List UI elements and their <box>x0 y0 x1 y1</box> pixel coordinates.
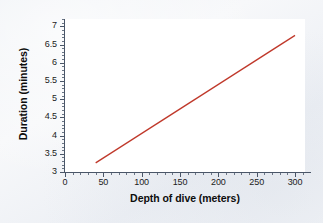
y-tick-label: 7 <box>33 20 57 30</box>
y-tick-minor <box>62 37 64 38</box>
x-tick-label: 250 <box>242 177 272 187</box>
y-tick-minor <box>62 41 64 42</box>
chart-figure: 050100150200250300 33.544.555.566.57 Dep… <box>0 0 323 223</box>
x-tick-label: 100 <box>127 177 157 187</box>
x-axis-title: Depth of dive (meters) <box>60 192 310 204</box>
y-tick-label: 5.5 <box>33 75 57 85</box>
y-axis-line <box>64 19 65 173</box>
y-tick-major <box>60 81 64 82</box>
x-tick-label: 300 <box>280 177 310 187</box>
data-line-layer <box>65 19 305 172</box>
y-tick-label: 3 <box>33 166 57 176</box>
y-tick-major <box>60 154 64 155</box>
y-tick-minor <box>62 52 64 53</box>
y-tick-minor <box>62 66 64 67</box>
x-tick-minor <box>80 173 81 175</box>
y-tick-minor <box>62 157 64 158</box>
y-tick-minor <box>62 125 64 126</box>
x-tick-minor <box>188 173 189 175</box>
x-tick-minor <box>249 173 250 175</box>
y-tick-label: 3.5 <box>33 148 57 158</box>
x-tick-minor <box>111 173 112 175</box>
y-tick-minor <box>62 143 64 144</box>
y-tick-minor <box>62 77 64 78</box>
y-tick-major <box>60 63 64 64</box>
y-tick-minor <box>62 114 64 115</box>
x-tick-minor <box>96 173 97 175</box>
x-tick-minor <box>264 173 265 175</box>
y-tick-minor <box>62 74 64 75</box>
y-tick-major <box>60 45 64 46</box>
x-tick-minor <box>241 173 242 175</box>
y-tick-minor <box>62 92 64 93</box>
x-tick-minor <box>73 173 74 175</box>
y-tick-minor <box>62 23 64 24</box>
y-tick-minor <box>62 165 64 166</box>
y-axis-title: Duration (minutes) <box>17 14 29 174</box>
x-tick-minor <box>272 173 273 175</box>
x-tick-minor <box>280 173 281 175</box>
data-series-line <box>96 35 295 163</box>
x-tick-minor <box>88 173 89 175</box>
y-tick-minor <box>62 48 64 49</box>
x-tick-minor <box>134 173 135 175</box>
y-tick-minor <box>62 139 64 140</box>
y-tick-label: 4.5 <box>33 111 57 121</box>
x-tick-minor <box>172 173 173 175</box>
y-tick-minor <box>62 96 64 97</box>
y-tick-label: 6.5 <box>33 39 57 49</box>
y-tick-minor <box>62 103 64 104</box>
y-tick-minor <box>62 121 64 122</box>
y-tick-minor <box>62 150 64 151</box>
y-tick-minor <box>62 70 64 71</box>
y-tick-minor <box>62 147 64 148</box>
y-tick-minor <box>62 106 64 107</box>
y-tick-label: 4 <box>33 130 57 140</box>
x-tick-minor <box>195 173 196 175</box>
y-tick-minor <box>62 110 64 111</box>
y-tick-major <box>60 172 64 173</box>
y-tick-minor <box>62 88 64 89</box>
y-tick-minor <box>62 55 64 56</box>
y-tick-minor <box>62 19 64 20</box>
x-tick-minor <box>287 173 288 175</box>
y-tick-minor <box>62 34 64 35</box>
x-tick-minor <box>203 173 204 175</box>
x-tick-minor <box>165 173 166 175</box>
y-tick-minor <box>62 161 64 162</box>
y-tick-major <box>60 26 64 27</box>
y-tick-minor <box>62 85 64 86</box>
x-tick-minor <box>234 173 235 175</box>
x-tick-label: 150 <box>165 177 195 187</box>
y-tick-major <box>60 136 64 137</box>
y-tick-major <box>60 99 64 100</box>
y-tick-minor <box>62 132 64 133</box>
x-tick-minor <box>303 173 304 175</box>
y-tick-minor <box>62 30 64 31</box>
x-tick-minor <box>149 173 150 175</box>
x-tick-label: 0 <box>50 177 80 187</box>
y-tick-minor <box>62 168 64 169</box>
x-tick-label: 200 <box>203 177 233 187</box>
y-tick-minor <box>62 59 64 60</box>
y-tick-major <box>60 117 64 118</box>
y-tick-label: 6 <box>33 57 57 67</box>
x-tick-minor <box>226 173 227 175</box>
x-tick-minor <box>119 173 120 175</box>
y-tick-minor <box>62 128 64 129</box>
x-tick-minor <box>211 173 212 175</box>
x-tick-label: 50 <box>88 177 118 187</box>
y-tick-label: 5 <box>33 93 57 103</box>
x-tick-minor <box>157 173 158 175</box>
x-tick-minor <box>126 173 127 175</box>
